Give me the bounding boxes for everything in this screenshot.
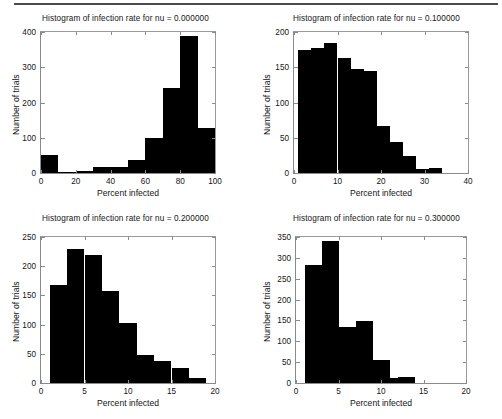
- y-axis-tick-right: [212, 266, 215, 267]
- x-axis-label: Percent infected: [40, 398, 216, 408]
- histogram-figure-grid: Histogram of infection rate for nu = 0.0…: [0, 8, 502, 419]
- x-axis-tick-label: 0: [39, 177, 44, 186]
- histogram-bar: [198, 128, 215, 173]
- x-axis-tick-label: 10: [376, 387, 385, 396]
- y-axis-tick-right: [463, 258, 466, 259]
- histogram-bar: [407, 377, 416, 383]
- histogram-bar: [364, 71, 377, 173]
- bar-series: [41, 237, 215, 383]
- x-axis-tick-top: [381, 237, 382, 240]
- x-axis-tick-label: 10: [123, 387, 132, 396]
- histogram-bar: [373, 360, 382, 383]
- x-axis-tick: [425, 170, 426, 174]
- x-axis-tick-top: [425, 32, 426, 35]
- y-axis-tick: [41, 67, 45, 68]
- x-axis-tick-top: [424, 237, 425, 240]
- x-axis-tick: [180, 170, 181, 174]
- histogram-bar: [137, 355, 154, 383]
- histogram-bar: [102, 291, 119, 383]
- y-axis-tick-right: [212, 237, 215, 238]
- x-axis-tick-label: 40: [463, 177, 472, 186]
- y-axis-tick-right: [212, 32, 215, 33]
- x-axis-tick-top: [111, 32, 112, 35]
- x-axis-tick-label: 20: [210, 387, 219, 396]
- y-axis-tick-right: [463, 320, 466, 321]
- y-axis-tick-right: [463, 279, 466, 280]
- y-axis-tick: [41, 138, 45, 139]
- panel-title: Histogram of infection rate for nu = 0.1…: [251, 14, 502, 23]
- y-axis-tick-label: 0: [251, 379, 291, 388]
- histogram-bar: [351, 69, 364, 173]
- y-axis-tick-label: 0: [0, 169, 36, 178]
- y-axis-tick-right: [212, 354, 215, 355]
- histogram-bar: [189, 378, 206, 383]
- y-axis-tick-right: [463, 237, 466, 238]
- x-axis-tick-label: 20: [71, 177, 80, 186]
- x-axis-tick: [424, 380, 425, 384]
- x-axis-tick-label: 15: [419, 387, 428, 396]
- x-axis-tick: [468, 170, 469, 174]
- y-axis-tick-right: [465, 103, 468, 104]
- y-axis-tick: [294, 67, 298, 68]
- histogram-bar: [330, 241, 339, 383]
- x-axis-label: Percent infected: [295, 398, 467, 408]
- y-axis-tick-right: [463, 341, 466, 342]
- bar-series: [41, 32, 215, 173]
- y-axis-tick-right: [465, 173, 468, 174]
- y-axis-tick-right: [465, 67, 468, 68]
- y-axis-tick-right: [212, 67, 215, 68]
- y-axis-tick-label: 350: [251, 233, 291, 242]
- x-axis-tick-top: [180, 32, 181, 35]
- histogram-bar: [58, 172, 75, 173]
- histogram-panel-nu-0: Histogram of infection rate for nu = 0.0…: [0, 8, 251, 208]
- y-axis-tick-label: 200: [0, 262, 36, 271]
- histogram-bar: [111, 167, 128, 173]
- panel-title: Histogram of infection rate for nu = 0.0…: [0, 14, 251, 23]
- x-axis-tick-top: [128, 237, 129, 240]
- histogram-bar: [172, 368, 189, 383]
- y-axis-tick: [296, 237, 300, 238]
- histogram-bar: [338, 58, 351, 173]
- histogram-bar: [390, 378, 399, 383]
- y-axis-label: Number of trials: [262, 281, 272, 342]
- y-axis-tick: [296, 279, 300, 280]
- y-axis-tick-right: [465, 32, 468, 33]
- histogram-bar: [93, 167, 110, 173]
- y-axis-tick: [41, 295, 45, 296]
- histogram-bar: [324, 43, 337, 173]
- y-axis-tick-right: [212, 325, 215, 326]
- x-axis-tick-label: 0: [294, 387, 299, 396]
- y-axis-tick: [296, 362, 300, 363]
- histogram-bar: [381, 360, 390, 383]
- histogram-bar: [377, 126, 390, 173]
- y-axis-tick-right: [463, 362, 466, 363]
- y-axis-tick: [41, 173, 45, 174]
- plot-area: [40, 236, 216, 384]
- x-axis-tick-top: [172, 237, 173, 240]
- y-axis-tick-label: 250: [0, 233, 36, 242]
- y-axis-tick: [294, 32, 298, 33]
- histogram-bar: [311, 48, 324, 173]
- y-axis-tick-right: [465, 138, 468, 139]
- histogram-bar: [339, 327, 348, 383]
- x-axis-tick-top: [339, 237, 340, 240]
- x-axis-tick-label: 80: [176, 177, 185, 186]
- histogram-bar: [145, 138, 162, 173]
- y-axis-tick-label: 300: [0, 63, 36, 72]
- histogram-bar: [67, 249, 84, 383]
- y-axis-tick: [41, 354, 45, 355]
- y-axis-tick-right: [463, 300, 466, 301]
- y-axis-label: Number of trials: [11, 74, 21, 135]
- plot-area: [293, 31, 469, 174]
- histogram-bar: [76, 171, 93, 173]
- y-axis-tick: [296, 258, 300, 259]
- y-axis-tick: [41, 325, 45, 326]
- y-axis-tick: [41, 383, 45, 384]
- histogram-bar: [364, 321, 373, 383]
- histogram-bar: [128, 160, 145, 173]
- x-axis-tick-top: [468, 32, 469, 35]
- y-axis-tick-right: [212, 383, 215, 384]
- y-axis-tick-label: 300: [251, 253, 291, 262]
- x-axis-tick-label: 10: [333, 177, 342, 186]
- x-axis-tick: [111, 170, 112, 174]
